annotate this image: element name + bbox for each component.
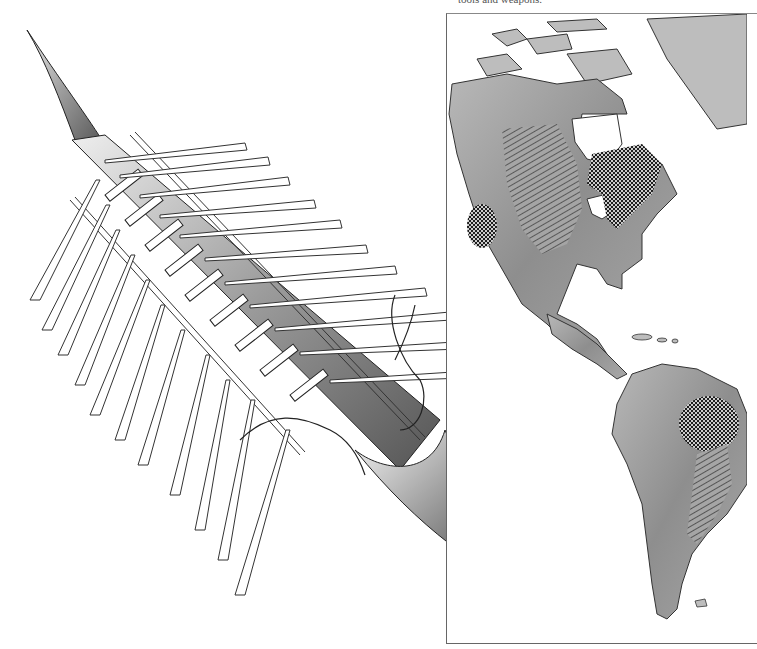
falkland-islands [695, 599, 707, 607]
canoe-bow [27, 30, 105, 145]
region-amazon-dots [679, 396, 739, 452]
map-frame [446, 13, 757, 644]
region-west-dots [467, 204, 497, 248]
central-america [547, 314, 627, 379]
caribbean-islands [632, 334, 678, 343]
americas-relief-map [447, 14, 747, 643]
